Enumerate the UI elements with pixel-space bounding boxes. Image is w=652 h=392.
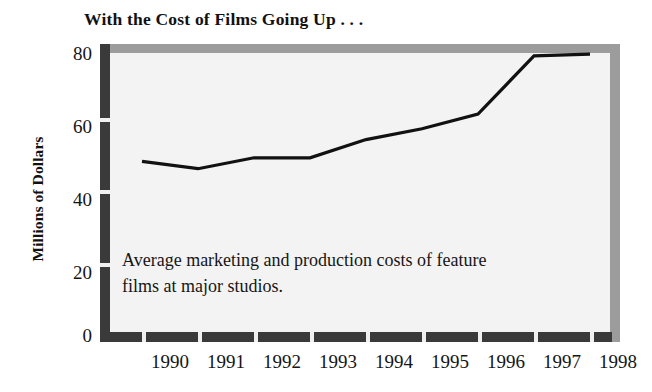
x-tick-mark-1994 — [366, 332, 370, 342]
plot-annotation-line-1: Average marketing and production costs o… — [122, 247, 552, 273]
y-tick-mark-40 — [100, 190, 110, 194]
x-tick-label-1990: 1990 — [140, 352, 200, 371]
x-tick-label-1997: 1997 — [532, 352, 592, 371]
x-tick-mark-1992 — [254, 332, 258, 342]
x-tick-label-1991: 1991 — [196, 352, 256, 371]
x-tick-mark-1997 — [534, 332, 538, 342]
x-tick-label-1998: 1998 — [588, 352, 648, 371]
x-tick-mark-1990 — [142, 332, 146, 342]
y-axis-title: Millions of Dollars — [29, 99, 47, 299]
x-tick-label-1995: 1995 — [420, 352, 480, 371]
y-tick-label-60: 60 — [46, 117, 92, 136]
x-tick-label-1992: 1992 — [252, 352, 312, 371]
x-tick-label-1993: 1993 — [308, 352, 368, 371]
y-tick-label-80: 80 — [46, 44, 92, 63]
x-tick-mark-1996 — [478, 332, 482, 342]
x-tick-mark-1993 — [310, 332, 314, 342]
y-tick-mark-20 — [100, 263, 110, 267]
x-tick-mark-1998 — [590, 332, 594, 342]
plot-annotation: Average marketing and production costs o… — [122, 247, 552, 299]
x-tick-mark-1995 — [422, 332, 426, 342]
y-tick-label-20: 20 — [46, 263, 92, 282]
plot-annotation-line-2: films at major studios. — [122, 273, 552, 299]
x-tick-label-1994: 1994 — [364, 352, 424, 371]
y-tick-mark-60 — [100, 118, 110, 122]
x-tick-mark-1991 — [198, 332, 202, 342]
chart-figure: With the Cost of Films Going Up . . . Mi… — [0, 0, 652, 392]
y-tick-label-40: 40 — [46, 190, 92, 209]
chart-title: With the Cost of Films Going Up . . . — [84, 8, 363, 30]
y-tick-label-0: 0 — [46, 326, 92, 345]
x-tick-label-1996: 1996 — [476, 352, 536, 371]
